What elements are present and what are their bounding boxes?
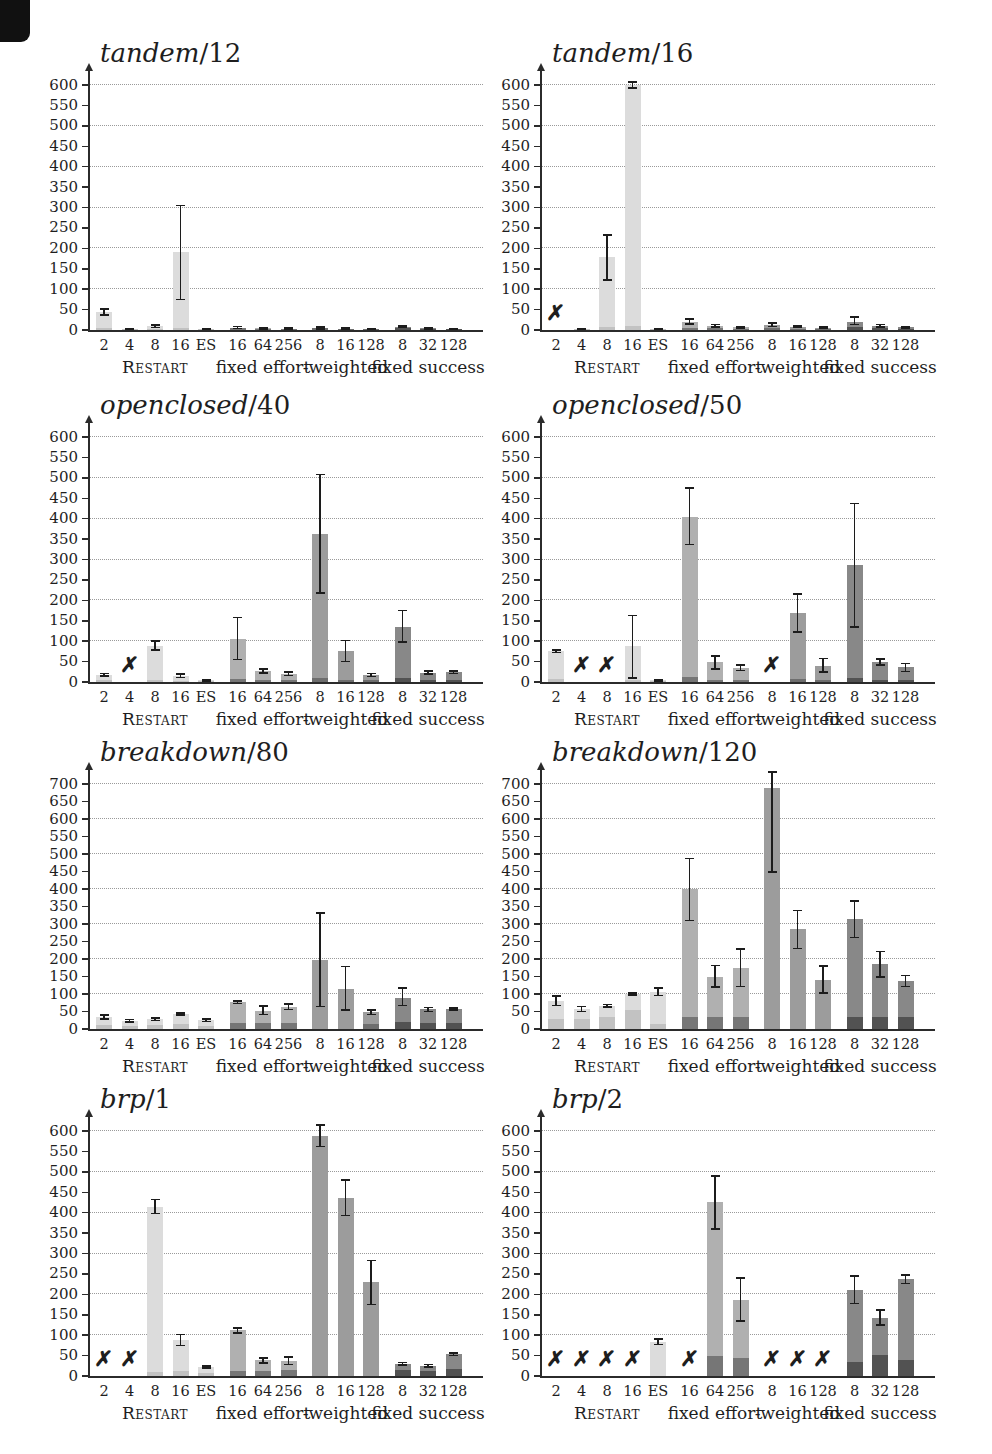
error-bar-bottom-cap [850,324,859,326]
y-tick-label: 100 [488,634,530,649]
y-tick-label: 600 [488,812,530,827]
bar [650,1342,666,1376]
failed-x-mark: ✗ [544,300,569,325]
error-bar-bottom-cap [233,1003,242,1005]
y-tick-label: 150 [488,1307,530,1322]
error-bar-bottom-cap [398,641,407,643]
y-tick-label: 50 [488,1348,530,1363]
y-tick-label: 350 [36,899,78,914]
chart-title-suffix: /1 [146,1084,171,1114]
y-axis [540,1117,542,1376]
error-bar-bottom-cap [202,1367,211,1369]
error-bar-top-cap [233,1000,242,1002]
y-axis-arrow-icon [537,762,545,770]
error-bar-top-cap [711,965,720,967]
y-tick-label: 300 [488,917,530,932]
error-bar-bottom-cap [768,871,777,873]
gridline [88,783,483,784]
y-tick-label: 250 [36,220,78,235]
chart-title: breakdown/80 [100,737,289,767]
error-bar-bottom-cap [341,661,350,663]
y-tick-label: 350 [488,532,530,547]
y-tick-label: 350 [36,1226,78,1241]
error-bar [740,949,742,986]
y-tick-label: 50 [36,1348,78,1363]
gridline [88,599,483,600]
y-tick-label: 100 [488,987,530,1002]
x-axis [540,330,935,332]
error-bar [771,772,773,872]
gridline [540,599,935,600]
error-bar-bottom-cap [284,1009,293,1011]
y-tick-label: 200 [488,593,530,608]
error-bar [345,640,347,661]
bar-base-segment [872,1355,888,1376]
y-tick-label: 600 [36,1124,78,1139]
group-label: fixed success [810,1057,950,1076]
y-tick-label: 450 [36,491,78,506]
error-bar-top-cap [424,670,433,672]
bar [147,1207,163,1376]
bar-base-segment [847,1362,863,1376]
error-bar-top-cap [398,987,407,989]
y-axis-arrow-icon [537,415,545,423]
failed-x-mark: ✗ [677,1346,702,1371]
error-bar-bottom-cap [793,631,802,633]
y-tick-label: 600 [36,78,78,93]
bar-base-segment [548,1019,564,1030]
error-bar [345,1180,347,1216]
y-tick-label: 50 [36,1004,78,1019]
gridline [88,436,483,437]
y-tick-label: 450 [488,1185,530,1200]
y-tick-label: 100 [488,1328,530,1343]
error-bar [822,966,824,993]
y-axis-arrow-icon [85,415,93,423]
gridline [88,853,483,854]
error-bar-top-cap [768,322,777,324]
y-tick-label: 450 [36,864,78,879]
y-tick-label: 150 [36,1307,78,1322]
error-bar-bottom-cap [901,1283,910,1285]
y-tick-label: 550 [36,450,78,465]
y-axis-arrow-icon [85,63,93,71]
bar [548,651,564,682]
error-bar-top-cap [850,503,859,505]
error-bar-top-cap [316,912,325,914]
y-tick-label: 700 [36,777,78,792]
chart-title-name: breakdown [552,737,699,767]
error-bar-bottom-cap [233,328,242,330]
category-label: 128 [886,689,926,705]
error-bar-top-cap [151,640,160,642]
y-tick-label: 300 [488,200,530,215]
error-bar-top-cap [233,617,242,619]
failed-x-mark: ✗ [544,1346,569,1371]
error-bar-bottom-cap [736,1320,745,1322]
error-bar-bottom-cap [685,544,694,546]
y-tick-label: 600 [488,78,530,93]
error-bar-bottom-cap [628,677,637,679]
x-axis [540,682,935,684]
y-axis-arrow-icon [85,762,93,770]
error-bar-top-cap [819,965,828,967]
error-bar-bottom-cap [850,937,859,939]
error-bar-top-cap [793,910,802,912]
error-bar-top-cap [424,1007,433,1009]
figure-page: tandem/120501001502002503003504004505005… [0,0,992,1454]
y-tick-label: 0 [36,323,78,338]
y-tick-label: 400 [488,159,530,174]
chart-title-suffix: /2 [598,1084,623,1114]
error-bar-top-cap [793,593,802,595]
gridline [88,166,483,167]
gridline [540,207,935,208]
error-bar-top-cap [100,1014,109,1016]
error-bar-bottom-cap [819,992,828,994]
error-bar-bottom-cap [654,995,663,997]
gridline [88,1171,483,1172]
y-tick-label: 250 [36,1266,78,1281]
error-bar-top-cap [603,1004,612,1006]
error-bar-top-cap [901,1274,910,1276]
y-tick-label: 100 [36,1328,78,1343]
error-bar-bottom-cap [876,1324,885,1326]
error-bar [319,913,321,1007]
error-bar-bottom-cap [284,1364,293,1366]
